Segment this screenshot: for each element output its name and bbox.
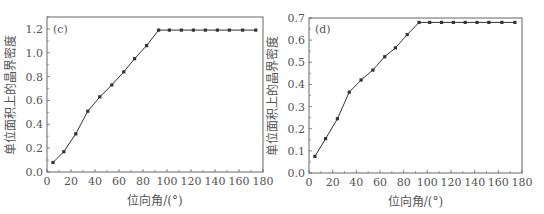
- x-tick-label: 160: [229, 175, 250, 188]
- x-tick-label: 0: [306, 176, 313, 189]
- data-marker: [475, 21, 478, 24]
- data-marker: [406, 33, 409, 36]
- x-tick-label: 140: [205, 175, 226, 188]
- x-tick-label: 20: [326, 176, 340, 189]
- data-marker: [513, 21, 516, 24]
- data-marker: [192, 29, 195, 32]
- y-tick-label: 1.0: [26, 47, 44, 60]
- data-marker: [51, 161, 54, 164]
- data-marker: [452, 21, 455, 24]
- data-marker: [383, 55, 386, 58]
- data-marker: [464, 21, 467, 24]
- x-tick-label: 20: [64, 175, 78, 188]
- x-tick-label: 140: [464, 176, 485, 189]
- plot-frame: [309, 18, 522, 173]
- data-marker: [180, 29, 183, 32]
- x-axis-label: 位向角/(°): [127, 193, 182, 208]
- data-marker: [157, 29, 160, 32]
- y-tick-label: 0.3: [288, 101, 306, 114]
- y-tick-label: 0.2: [26, 142, 44, 155]
- data-marker: [133, 57, 136, 60]
- y-tick-label: 0.6: [288, 34, 306, 47]
- data-marker: [428, 21, 431, 24]
- y-tick-label: 0.4: [288, 78, 306, 91]
- data-marker: [86, 110, 89, 113]
- data-marker: [98, 95, 101, 98]
- x-tick-label: 180: [253, 175, 274, 188]
- y-tick-label: 0.8: [26, 71, 44, 84]
- y-tick-label: 0.0: [26, 166, 44, 179]
- panel-label: (d): [315, 23, 331, 36]
- data-marker: [417, 21, 420, 24]
- y-tick-label: 0.5: [288, 56, 306, 69]
- x-tick-label: 60: [112, 175, 126, 188]
- data-marker: [74, 132, 77, 135]
- chart-panel-d: 0204060801001201401601800.00.10.20.30.40…: [265, 12, 533, 209]
- y-tick-label: 1.2: [26, 23, 44, 36]
- data-marker: [145, 44, 148, 47]
- data-marker: [336, 117, 339, 120]
- panel-label: (c): [53, 23, 68, 36]
- y-tick-label: 0.4: [26, 118, 44, 131]
- chart-panel-c: 0204060801001201401601800.00.20.40.60.81…: [3, 17, 274, 208]
- x-tick-label: 100: [157, 175, 178, 188]
- data-marker: [324, 137, 327, 140]
- x-tick-label: 160: [488, 176, 509, 189]
- x-tick-label: 80: [397, 176, 411, 189]
- plot-frame: [47, 17, 263, 172]
- y-tick-label: 0.6: [26, 94, 44, 107]
- data-marker: [313, 155, 316, 158]
- x-tick-label: 40: [88, 175, 102, 188]
- x-tick-label: 120: [441, 176, 462, 189]
- data-marker: [122, 70, 125, 73]
- data-marker: [359, 78, 362, 81]
- x-tick-label: 80: [136, 175, 150, 188]
- data-marker: [371, 68, 374, 71]
- data-line: [315, 22, 515, 156]
- y-axis-label: 单位面积上的晶界密度: [265, 36, 280, 156]
- data-marker: [254, 29, 257, 32]
- y-tick-label: 0.7: [288, 12, 306, 25]
- data-marker: [487, 21, 490, 24]
- y-tick-label: 0.0: [288, 167, 306, 180]
- data-marker: [500, 21, 503, 24]
- y-axis-label: 单位面积上的晶界密度: [3, 35, 18, 155]
- x-tick-label: 60: [373, 176, 387, 189]
- data-line: [53, 30, 256, 162]
- x-tick-label: 100: [417, 176, 438, 189]
- x-axis-label: 位向角/(°): [388, 194, 443, 209]
- data-marker: [228, 29, 231, 32]
- data-marker: [110, 83, 113, 86]
- data-marker: [394, 46, 397, 49]
- x-tick-label: 40: [349, 176, 363, 189]
- data-marker: [216, 29, 219, 32]
- y-tick-label: 0.2: [288, 123, 306, 136]
- x-tick-label: 180: [512, 176, 533, 189]
- data-marker: [204, 29, 207, 32]
- data-marker: [168, 29, 171, 32]
- chart-figure: 0204060801001201401601800.00.20.40.60.81…: [0, 0, 544, 214]
- data-marker: [440, 21, 443, 24]
- x-tick-label: 120: [181, 175, 202, 188]
- x-tick-label: 0: [44, 175, 51, 188]
- y-tick-label: 0.1: [288, 145, 306, 158]
- data-marker: [62, 150, 65, 153]
- data-marker: [241, 29, 244, 32]
- data-marker: [348, 91, 351, 94]
